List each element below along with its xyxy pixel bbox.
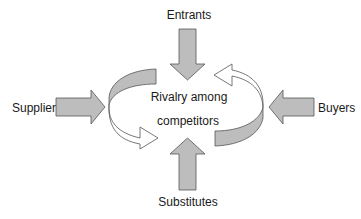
- entrants-label: Entrants: [167, 8, 212, 22]
- rivalry-right-cycle-arrow-icon: [214, 64, 263, 146]
- buyers-arrow-icon: [269, 90, 314, 124]
- substitutes-label: Substitutes: [158, 195, 217, 209]
- rivalry-label-line1: Rivalry among: [151, 90, 228, 104]
- rivalry-label-line2: competitors: [157, 114, 219, 128]
- suppliers-arrow-icon: [56, 90, 105, 124]
- substitutes-arrow-icon: [170, 138, 205, 190]
- buyers-label: Buyers: [318, 101, 355, 115]
- five-forces-diagram: Entrants Substitutes Suppliers Buyers Ri…: [0, 0, 361, 219]
- rivalry-left-cycle-arrow-icon: [109, 69, 158, 149]
- entrants-arrow-icon: [170, 29, 205, 80]
- suppliers-label: Suppliers: [12, 101, 62, 115]
